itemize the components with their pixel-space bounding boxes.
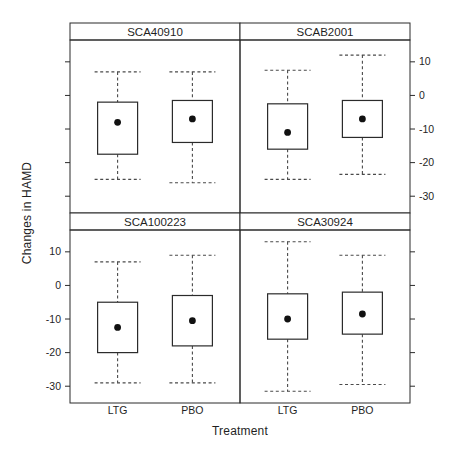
x-category-label-LTG: LTG xyxy=(278,404,298,416)
panel-SCA30924 xyxy=(240,230,410,403)
y-tick-label-left: -30 xyxy=(46,380,61,392)
boxplot-figure: SCA40910SCAB2001100-10-20-30SCA100223100… xyxy=(0,0,460,460)
panel-SCAB2001 xyxy=(240,40,410,213)
x-axis-title: Treatment xyxy=(212,424,268,438)
median-dot-SCAB2001-PBO xyxy=(359,116,366,123)
strip-label-SCA30924: SCA30924 xyxy=(297,216,353,228)
iqr-box-SCAB2001-LTG xyxy=(268,104,308,149)
panel-SCA100223 xyxy=(70,230,240,403)
x-category-label-PBO: PBO xyxy=(181,404,203,416)
median-dot-SCA30924-LTG xyxy=(284,316,291,323)
median-dot-SCAB2001-LTG xyxy=(284,129,291,136)
y-tick-label-left: 0 xyxy=(55,279,61,291)
median-dot-SCA100223-LTG xyxy=(114,324,121,331)
x-category-label-LTG: LTG xyxy=(108,404,128,416)
y-tick-label-right: -10 xyxy=(419,123,434,135)
chart-canvas: SCA40910SCAB2001100-10-20-30SCA100223100… xyxy=(0,0,460,460)
panel-SCA40910 xyxy=(70,40,240,213)
x-category-label-PBO: PBO xyxy=(351,404,373,416)
strip-label-SCA100223: SCA100223 xyxy=(124,216,186,228)
median-dot-SCA30924-PBO xyxy=(359,311,366,318)
median-dot-SCA40910-LTG xyxy=(114,119,121,126)
y-tick-label-right: -20 xyxy=(419,156,434,168)
iqr-box-SCA40910-LTG xyxy=(98,102,138,154)
y-tick-label-left: -10 xyxy=(46,313,61,325)
strip-label-SCAB2001: SCAB2001 xyxy=(297,26,354,38)
y-axis-title: Changes in HAMD xyxy=(20,162,34,264)
median-dot-SCA100223-PBO xyxy=(189,317,196,324)
y-tick-label-left: -20 xyxy=(46,346,61,358)
median-dot-SCA40910-PBO xyxy=(189,116,196,123)
y-tick-label-right: -30 xyxy=(419,190,434,202)
y-tick-label-left: 10 xyxy=(49,245,61,257)
y-tick-label-right: 0 xyxy=(419,89,425,101)
strip-label-SCA40910: SCA40910 xyxy=(127,26,183,38)
y-tick-label-right: 10 xyxy=(419,55,431,67)
